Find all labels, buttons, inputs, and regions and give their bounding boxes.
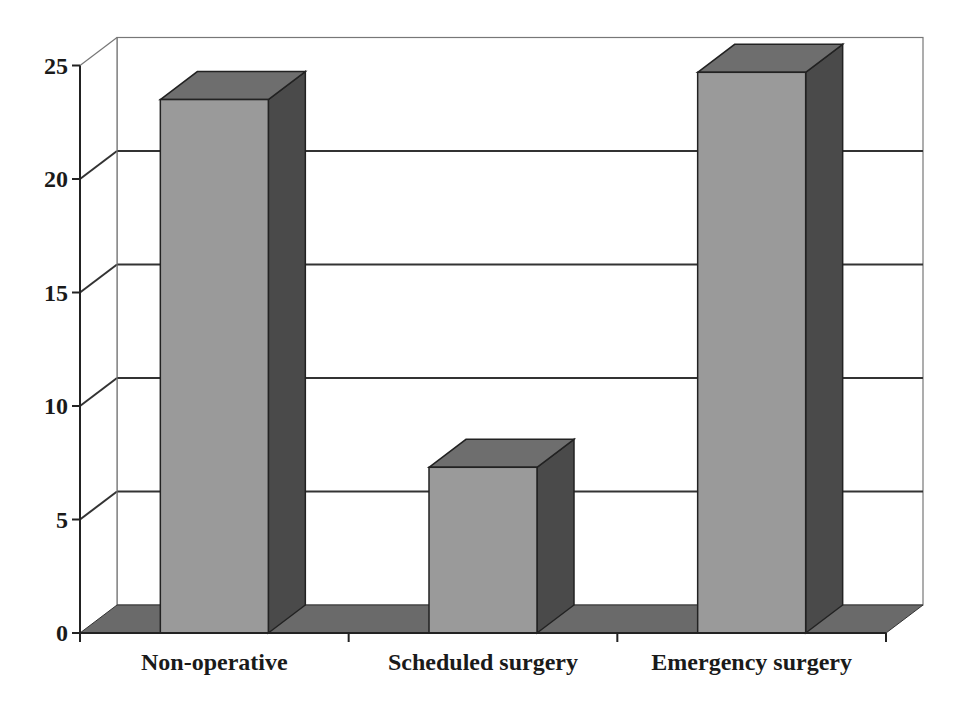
x-category-label: Scheduled surgery	[388, 649, 578, 675]
y-tick-label-5: 5	[56, 507, 68, 533]
bar-front-face	[429, 467, 537, 633]
bar-emergency-surgery	[698, 44, 843, 633]
y-axis	[72, 66, 80, 642]
bar-side-face	[806, 44, 843, 633]
bar-side-face	[268, 72, 305, 633]
y-tick-label-20: 20	[44, 166, 68, 192]
bar-front-face	[698, 72, 806, 633]
bar-non-operative	[160, 72, 305, 633]
y-tick-label-15: 15	[44, 280, 68, 306]
x-axis	[80, 633, 886, 642]
y-tick-label-10: 10	[44, 393, 68, 419]
y-tick-label-25: 25	[44, 53, 68, 79]
x-axis-category-labels: Non-operativeScheduled surgeryEmergency …	[141, 649, 852, 675]
side-wall	[80, 38, 117, 634]
x-category-label: Non-operative	[141, 649, 288, 675]
bar-scheduled-surgery	[429, 439, 574, 633]
bar-side-face	[537, 439, 574, 633]
x-category-label: Emergency surgery	[651, 649, 852, 675]
y-tick-label-0: 0	[56, 620, 68, 646]
bar-chart: 0510152025 Non-operativeScheduled surger…	[0, 0, 965, 713]
y-axis-tick-labels: 0510152025	[44, 53, 68, 647]
bar-front-face	[160, 100, 268, 633]
